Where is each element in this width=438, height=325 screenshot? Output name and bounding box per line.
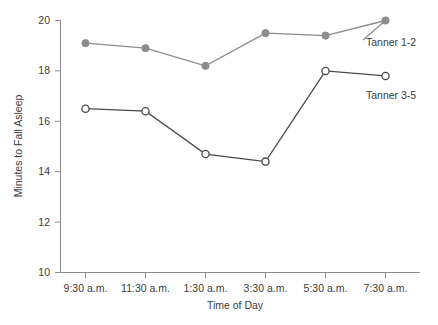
x-tick-label-3: 3:30 a.m. <box>244 282 288 294</box>
data-point <box>322 67 329 74</box>
y-tick-label-20: 20 <box>38 14 50 26</box>
x-tick-label-4: 5:30 a.m. <box>304 282 348 294</box>
series-markers-tanner-3-5 <box>82 67 389 165</box>
data-point <box>202 150 209 157</box>
plot-area: 10 12 14 16 18 20 9:30 a.m. 11:30 a.m. 1… <box>0 0 438 325</box>
series-line-tanner-1-2 <box>86 21 386 66</box>
data-point <box>82 40 89 47</box>
x-tick-label-0: 9:30 a.m. <box>64 282 108 294</box>
y-tick-label-14: 14 <box>38 165 50 177</box>
data-point <box>262 158 269 165</box>
y-tick-label-16: 16 <box>38 115 50 127</box>
data-point <box>82 105 89 112</box>
y-tick-label-18: 18 <box>38 64 50 76</box>
data-point <box>142 45 149 52</box>
data-point <box>322 32 329 39</box>
data-point <box>382 17 389 24</box>
series-label-tanner-3-5: Tanner 3-5 <box>366 89 416 101</box>
data-point <box>382 72 389 79</box>
y-axis-title: Minutes to Fall Asleep <box>12 94 24 197</box>
x-tick-label-5: 7:30 a.m. <box>364 282 408 294</box>
y-tick-label-10: 10 <box>38 266 50 278</box>
x-tick-label-2: 1:30 a.m. <box>184 282 228 294</box>
series-line-tanner-3-5 <box>86 71 386 162</box>
series-label-tanner-1-2: Tanner 1-2 <box>366 36 416 48</box>
y-tick-label-12: 12 <box>38 216 50 228</box>
x-tick-label-1: 11:30 a.m. <box>121 282 170 294</box>
data-point <box>202 62 209 69</box>
series-markers-tanner-1-2 <box>82 17 389 70</box>
data-point <box>262 29 269 36</box>
x-axis-title: Time of Day <box>207 299 264 311</box>
data-point <box>142 108 149 115</box>
line-chart: 10 12 14 16 18 20 9:30 a.m. 11:30 a.m. 1… <box>0 0 438 325</box>
